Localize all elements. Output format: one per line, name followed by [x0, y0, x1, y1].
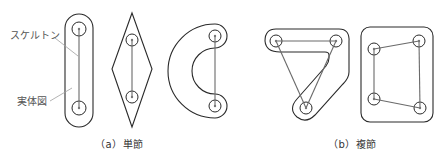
solid-leader-line [50, 88, 72, 101]
caption-b: （b）複節 [328, 139, 377, 151]
solid-body-label: 実体図 [17, 96, 47, 108]
skeleton-label: スケルトン [10, 30, 60, 42]
quaternary-link [361, 27, 433, 122]
crescent-link [168, 24, 227, 118]
capsule-link [65, 14, 93, 127]
diagram-canvas [0, 0, 444, 157]
diamond-link [112, 13, 152, 127]
ternary-link [265, 29, 349, 120]
caption-a: （a）単節 [95, 139, 144, 151]
